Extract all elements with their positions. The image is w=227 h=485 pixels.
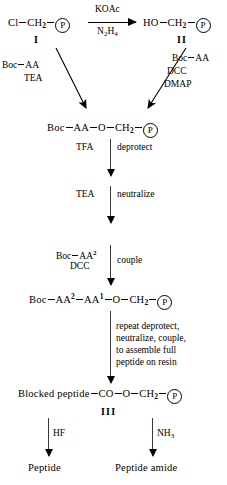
step-label-couple: couple <box>117 255 142 267</box>
bond <box>48 299 55 300</box>
resin-bead-icon: P <box>143 123 158 138</box>
blocked-peptide-name: Blocked peptide <box>18 388 90 399</box>
repeat-line-3: to assemble full <box>116 344 186 356</box>
bond <box>66 127 73 128</box>
reaction-scheme-diagram: ClCH2P I KOAc N2H4 HOCH2P II BocAA TEA B… <box>0 0 227 485</box>
reagent-boc-aa-right: BocAA <box>172 53 209 65</box>
bond <box>135 127 142 128</box>
reagent-tfa: TFA <box>76 142 93 154</box>
product-peptide: Peptide <box>28 462 61 473</box>
bond <box>149 299 156 300</box>
bond <box>91 393 98 394</box>
bond <box>115 393 122 394</box>
arrow-couple <box>110 245 111 285</box>
resin-bead-icon: P <box>157 295 172 310</box>
repeat-line-2: neutralize, couple, <box>116 332 186 344</box>
diagonal-arrow-left <box>56 48 86 108</box>
species-blocked-peptide-resin: Blocked peptideCOOCH2P <box>18 388 182 404</box>
reagent-boc-aa-left: BocAA <box>2 60 39 72</box>
bond <box>188 57 194 58</box>
reagent-dcc-couple: DCC <box>70 261 90 273</box>
reagent-dmap-right: DMAP <box>164 79 191 91</box>
bond <box>121 299 128 300</box>
arrow-deprotect <box>110 139 111 176</box>
bond <box>18 64 24 65</box>
reagent-tea-left: TEA <box>24 73 42 85</box>
bond <box>131 393 138 394</box>
step-label-deprotect: deprotect <box>117 142 152 154</box>
compound-label-iii: III <box>101 406 116 417</box>
ch2-group: CH2 <box>115 122 134 133</box>
bond <box>90 127 97 128</box>
arrow-neutralize <box>110 186 111 223</box>
repeat-line-1: repeat deprotect, <box>116 320 186 332</box>
ch2-group: CH2 <box>139 388 158 399</box>
repeat-line-4: peptide on resin <box>116 356 186 368</box>
bond <box>159 393 166 394</box>
species-dipeptide-resin: BocAA2AA1OCH2P <box>29 292 172 310</box>
step-label-neutralize: neutralize <box>117 189 154 201</box>
arrow-repeat-cycle <box>110 311 111 383</box>
bond <box>105 299 112 300</box>
step-label-repeat-cycle: repeat deprotect, neutralize, couple, to… <box>116 320 186 368</box>
reagent-dcc-right: DCC <box>167 66 187 78</box>
reagent-tea-neutralize: TEA <box>76 189 94 201</box>
arrow-ammonia-cleavage <box>152 418 153 456</box>
reagent-ammonia: NH3 <box>157 428 174 443</box>
species-boc-aa-resin-ester: BocAAOCH2P <box>47 122 158 138</box>
product-peptide-amide: Peptide amide <box>115 462 177 473</box>
bond <box>107 127 114 128</box>
arrow-hf-cleavage <box>48 418 49 456</box>
bond <box>76 299 83 300</box>
resin-bead-icon: P <box>167 389 182 404</box>
reagent-hf: HF <box>53 428 65 440</box>
ch2-group: CH2 <box>129 294 148 305</box>
bond <box>72 255 78 256</box>
